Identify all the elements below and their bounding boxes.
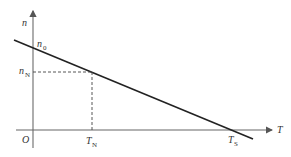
svg-text:S: S	[234, 140, 238, 148]
diagram-canvas: n T O n 0 n N T N T S	[0, 0, 291, 157]
svg-text:n: n	[37, 38, 42, 49]
x-axis-label: T	[277, 124, 284, 135]
characteristic-line	[14, 40, 253, 139]
y-axis-label: n	[22, 17, 27, 28]
svg-text:n: n	[19, 65, 24, 76]
svg-text:0: 0	[43, 44, 47, 52]
svg-text:N: N	[92, 141, 97, 149]
origin-label: O	[22, 134, 29, 145]
TS-label: T S	[228, 134, 238, 148]
TN-label: T N	[86, 135, 97, 149]
svg-text:N: N	[25, 71, 30, 79]
nN-label: n N	[19, 65, 30, 79]
